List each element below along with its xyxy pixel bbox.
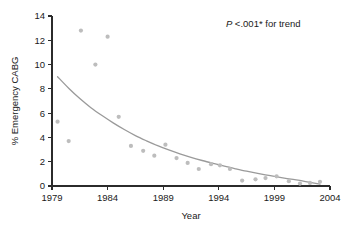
x-tick-labels: 197919841989199419992004 bbox=[41, 192, 340, 203]
data-point bbox=[287, 179, 291, 183]
data-point bbox=[240, 178, 244, 182]
y-axis-group: 02468101214 % Emergency CABG bbox=[9, 10, 52, 191]
y-tick-label: 14 bbox=[34, 10, 45, 21]
y-tick-label: 12 bbox=[34, 35, 45, 46]
data-point bbox=[79, 28, 83, 32]
y-tick-label: 2 bbox=[40, 156, 45, 167]
data-point bbox=[152, 154, 156, 158]
y-tick-label: 0 bbox=[40, 180, 45, 191]
x-tick-label: 1979 bbox=[41, 192, 62, 203]
chart-svg: 02468101214 % Emergency CABG 19791984198… bbox=[0, 0, 356, 230]
scatter-points-group bbox=[55, 28, 322, 185]
data-point bbox=[141, 149, 145, 153]
y-tick-label: 6 bbox=[40, 108, 45, 119]
y-tick-label: 10 bbox=[34, 59, 45, 70]
data-point bbox=[197, 167, 201, 171]
x-axis-title: Year bbox=[181, 210, 200, 221]
x-tick-label: 1999 bbox=[264, 192, 285, 203]
y-tick-marks bbox=[48, 16, 52, 186]
data-point bbox=[174, 156, 178, 160]
data-point bbox=[129, 144, 133, 148]
data-point bbox=[106, 35, 110, 39]
data-point bbox=[298, 181, 302, 185]
p-value-body: <.001* for trend bbox=[232, 18, 300, 29]
x-axis-group: 197919841989199419992004 Year bbox=[41, 186, 340, 221]
data-point bbox=[163, 143, 167, 147]
data-point bbox=[308, 181, 312, 185]
data-point bbox=[228, 167, 232, 171]
y-tick-label: 4 bbox=[40, 132, 45, 143]
x-tick-label: 1989 bbox=[153, 192, 174, 203]
x-tick-label: 1984 bbox=[97, 192, 118, 203]
data-point bbox=[55, 120, 59, 124]
x-tick-marks bbox=[52, 186, 330, 190]
y-axis-title: % Emergency CABG bbox=[9, 57, 20, 146]
data-point bbox=[67, 139, 71, 143]
data-point bbox=[318, 180, 322, 184]
data-point bbox=[117, 115, 121, 119]
data-point bbox=[209, 162, 213, 166]
x-tick-label: 2004 bbox=[319, 192, 340, 203]
data-point bbox=[186, 161, 190, 165]
x-tick-label: 1994 bbox=[208, 192, 229, 203]
data-point bbox=[93, 62, 97, 66]
data-point bbox=[218, 163, 222, 167]
data-point bbox=[263, 176, 267, 180]
p-value-annotation: P <.001* for trend bbox=[226, 18, 301, 29]
trend-line bbox=[58, 77, 320, 184]
chart-figure: 02468101214 % Emergency CABG 19791984198… bbox=[0, 0, 356, 230]
y-tick-label: 8 bbox=[40, 83, 45, 94]
data-point bbox=[275, 174, 279, 178]
y-tick-labels: 02468101214 bbox=[34, 10, 45, 191]
data-point bbox=[253, 177, 257, 181]
